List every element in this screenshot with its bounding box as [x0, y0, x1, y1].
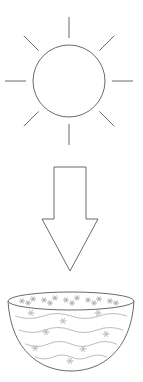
- ray-northwest: [24, 36, 39, 51]
- bowl-body: [8, 301, 134, 371]
- sun-icon: [5, 17, 133, 145]
- ray-southeast: [99, 111, 114, 126]
- diagram-svg: [0, 0, 143, 382]
- ray-northeast: [99, 36, 114, 51]
- downward-arrow-icon: [42, 167, 98, 271]
- water-bowl-icon: [8, 292, 134, 371]
- sun-disc: [33, 45, 105, 117]
- arrow-outline: [42, 167, 98, 271]
- ray-southwest: [24, 111, 39, 126]
- diagram-canvas: [0, 0, 143, 382]
- sun-rays: [5, 17, 133, 145]
